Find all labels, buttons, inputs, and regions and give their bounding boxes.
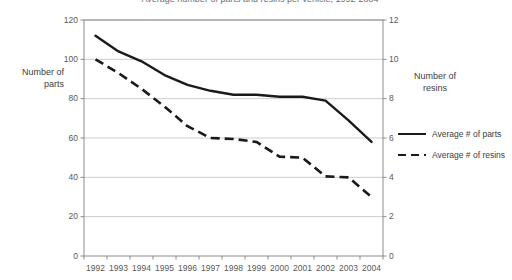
y-axis-left-tick-label: 20: [48, 212, 78, 221]
y-axis-left-title-line1: Number of: [22, 67, 64, 77]
y-axis-right-tick-label: 10: [389, 55, 413, 64]
y-axis-right-tick-label: 0: [389, 252, 413, 261]
y-axis-right-tick-label: 12: [389, 16, 413, 25]
x-axis-tick-label: 2004: [359, 264, 385, 273]
x-axis-ticks: [84, 256, 383, 260]
y-axis-left-tick-label: 100: [48, 55, 78, 64]
legend-swatch-dashed-icon: [398, 150, 426, 160]
legend-item-parts: Average # of parts: [398, 123, 512, 144]
legend-swatch-solid-icon: [398, 129, 426, 139]
y-axis-right-title: Number of resins: [400, 70, 470, 94]
y-axis-left-tick-label: 0: [48, 252, 78, 261]
y-axis-right-tick-label: 2: [389, 212, 413, 221]
y-axis-right-ticks: [383, 20, 387, 256]
series-line-parts: [96, 36, 372, 142]
y-axis-left-tick-label: 80: [48, 94, 78, 103]
legend-label-resins: Average # of resins: [432, 150, 505, 160]
y-axis-left-ticks: [81, 20, 85, 256]
y-axis-left-tick-label: 120: [48, 16, 78, 25]
legend-label-parts: Average # of parts: [432, 129, 501, 139]
y-axis-left-tick-label: 40: [48, 173, 78, 182]
legend-item-resins: Average # of resins: [398, 144, 512, 165]
gridlines: [84, 20, 383, 217]
y-axis-left-title-line2: parts: [2, 78, 64, 90]
y-axis-right-tick-label: 4: [389, 173, 413, 182]
chart-legend: Average # of parts Average # of resins: [398, 123, 512, 165]
y-axis-left-title: Number of parts: [2, 66, 64, 90]
series-line-resins: [96, 59, 372, 197]
y-axis-right-title-line1: Number of: [414, 71, 456, 81]
y-axis-right-tick-label: 8: [389, 94, 413, 103]
chart-container: Average number of parts and resins per v…: [0, 0, 512, 280]
y-axis-left-tick-label: 60: [48, 134, 78, 143]
y-axis-right-title-line2: resins: [400, 82, 470, 94]
